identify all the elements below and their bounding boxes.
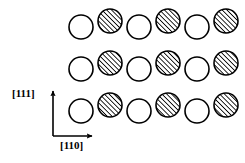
atom-circle-open <box>127 57 151 81</box>
atom-group-open <box>69 15 209 123</box>
atom-circle-hatched <box>98 9 122 33</box>
crystal-lattice-figure: [111] [110] <box>0 0 245 163</box>
atom-circle-hatched <box>156 51 180 75</box>
axis-label-vertical: [111] <box>12 88 35 99</box>
atom-group-hatched <box>98 9 238 117</box>
atom-circle-hatched <box>156 9 180 33</box>
atom-circle-open <box>127 99 151 123</box>
atom-circle-open <box>185 57 209 81</box>
atom-circle-hatched <box>214 9 238 33</box>
atom-circle-hatched <box>214 93 238 117</box>
atom-circle-hatched <box>214 51 238 75</box>
lattice-diagram <box>0 0 245 163</box>
atom-circle-open <box>185 99 209 123</box>
axis-label-horizontal: [110] <box>60 140 83 151</box>
atom-circle-hatched <box>156 93 180 117</box>
atom-circle-open <box>127 15 151 39</box>
atom-circle-hatched <box>98 51 122 75</box>
atom-circle-hatched <box>98 93 122 117</box>
atom-circle-open <box>69 15 93 39</box>
atom-circle-open <box>185 15 209 39</box>
atom-circle-open <box>69 99 93 123</box>
atom-circle-open <box>69 57 93 81</box>
